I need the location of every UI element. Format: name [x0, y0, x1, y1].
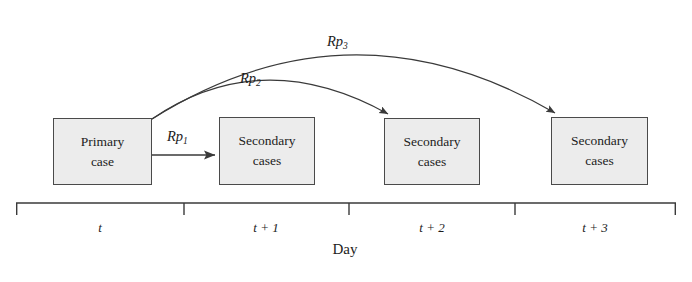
- arrow-label-rp2: Rp2: [240, 70, 261, 87]
- arrow-label-rp1: Rp1: [167, 128, 188, 145]
- secondary-cases-t2-box: Secondary cases: [384, 118, 480, 185]
- axis-tick-label-t-plus-3: t + 3: [555, 220, 635, 236]
- diagram-canvas: Primary case Secondary cases Secondary c…: [0, 0, 692, 282]
- primary-case-label-line2: case: [91, 152, 114, 172]
- primary-case-label-line1: Primary: [81, 132, 125, 152]
- arrow-rp2: [152, 80, 388, 119]
- arrow-label-rp3-sub: 3: [343, 41, 348, 51]
- axis-title-day: Day: [305, 241, 385, 258]
- day-axis: [16, 203, 676, 215]
- arrow-rp3: [152, 55, 555, 119]
- secondary-cases-t3-label-line2: cases: [585, 151, 613, 171]
- secondary-cases-t2-label-line2: cases: [418, 152, 446, 172]
- arrow-label-rp1-base: Rp: [167, 128, 183, 144]
- arrow-label-rp1-sub: 1: [183, 136, 188, 146]
- secondary-cases-t3-box: Secondary cases: [551, 117, 648, 185]
- arrow-label-rp3-base: Rp: [327, 33, 343, 49]
- arrow-label-rp2-base: Rp: [240, 70, 256, 86]
- secondary-cases-t1-label-line1: Secondary: [239, 131, 296, 151]
- primary-case-box: Primary case: [53, 118, 152, 185]
- axis-tick-label-t: t: [60, 220, 140, 236]
- axis-tick-label-t-plus-1: t + 1: [226, 220, 306, 236]
- arrow-label-rp3: Rp3: [327, 33, 348, 50]
- secondary-cases-t3-label-line1: Secondary: [571, 131, 628, 151]
- secondary-cases-t2-label-line1: Secondary: [404, 132, 461, 152]
- axis-tick-label-t-plus-2: t + 2: [392, 220, 472, 236]
- arrow-label-rp2-sub: 2: [256, 78, 261, 88]
- secondary-cases-t1-label-line2: cases: [253, 151, 281, 171]
- secondary-cases-t1-box: Secondary cases: [219, 117, 315, 185]
